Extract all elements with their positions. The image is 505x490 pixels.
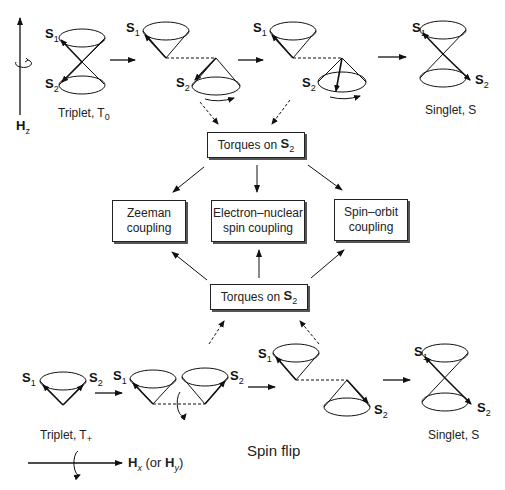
s1-label: S1 — [414, 344, 428, 362]
spin-orbit-coupling-box: Spin–orbitcoupling — [334, 199, 408, 241]
singlet-top-cones-icon — [420, 21, 470, 87]
s1-label: S1 — [253, 20, 267, 38]
triplet-tplus-label: Triplet, T+ — [40, 428, 92, 444]
stage2-cones-icon — [143, 22, 240, 101]
zeeman-coupling-box: Zeemancoupling — [112, 200, 186, 242]
triplet-t0-label: Triplet, T0 — [58, 106, 110, 122]
s2-label: S2 — [45, 76, 59, 94]
field-hx-label: Hx (or Hy) — [128, 455, 183, 473]
spin-flip-label: Spin flip — [247, 442, 300, 459]
stage2-bottom-cones-icon — [130, 368, 228, 416]
stage3-cones-icon — [270, 22, 366, 99]
torques-box-top: Torques on S2 — [207, 132, 305, 158]
s2-label: S2 — [302, 75, 316, 93]
field-hz-arrow-icon — [16, 18, 32, 115]
s1-label: S1 — [113, 368, 127, 386]
s1-label: S1 — [412, 20, 426, 38]
s1-label: S1 — [258, 346, 272, 364]
singlet-top-label: Singlet, S — [425, 103, 476, 117]
s2-label: S2 — [230, 368, 244, 386]
s2-label: S2 — [176, 75, 190, 93]
s2-label: S2 — [475, 72, 489, 90]
s1-label: S1 — [22, 370, 36, 388]
triplet-tplus-cones-icon — [40, 372, 86, 405]
electron-nuclear-coupling-box: Electron–nuclearspin coupling — [211, 200, 305, 242]
field-hz-label: Hz — [16, 118, 30, 136]
singlet-bottom-cones-icon — [422, 344, 471, 411]
s1-label: S1 — [45, 26, 59, 44]
triplet-t0-cones-icon — [59, 29, 105, 94]
spin-flip-cones-icon — [273, 344, 370, 416]
diagram-canvas — [0, 0, 505, 490]
s2-label: S2 — [374, 402, 388, 420]
field-hx-arrow-icon — [28, 451, 122, 475]
singlet-bottom-label: Singlet, S — [428, 428, 479, 442]
torques-box-bottom: Torques on S2 — [210, 284, 308, 310]
s1-label: S1 — [126, 20, 140, 38]
s2-label: S2 — [89, 370, 103, 388]
s2-label: S2 — [477, 400, 491, 418]
